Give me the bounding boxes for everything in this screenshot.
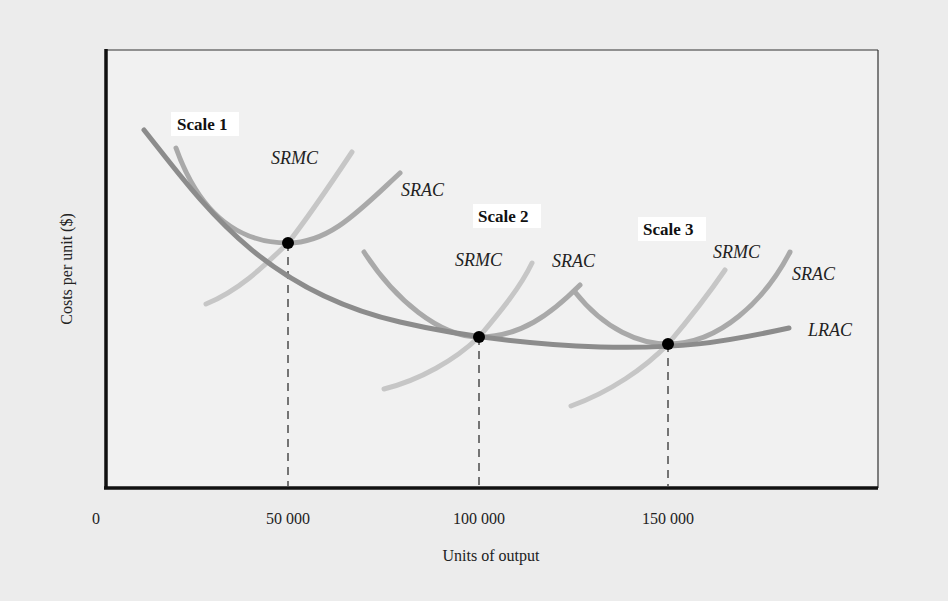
x-axis-label: Units of output <box>443 547 540 565</box>
scale3-label: Scale 3 <box>643 220 694 239</box>
x-tick-0: 0 <box>92 510 100 527</box>
optimum-point-scale1 <box>282 237 294 249</box>
x-tick-100000: 100 000 <box>453 510 505 527</box>
scale2-label: Scale 2 <box>478 207 529 226</box>
srac-label-scale3: SRAC <box>792 264 836 284</box>
srmc-label-scale1: SRMC <box>271 148 319 168</box>
lrac-label: LRAC <box>807 320 853 340</box>
srac-label-scale1: SRAC <box>401 180 445 200</box>
srac-label-scale2: SRAC <box>552 251 596 271</box>
scale1-label: Scale 1 <box>177 115 228 134</box>
optimum-point-scale3 <box>662 338 674 350</box>
x-tick-150000: 150 000 <box>642 510 694 527</box>
x-tick-50000: 50 000 <box>266 510 310 527</box>
srmc-label-scale3: SRMC <box>713 242 761 262</box>
y-axis-label: Costs per unit ($) <box>58 213 76 325</box>
srmc-label-scale2: SRMC <box>455 250 503 270</box>
cost-curves-chart: Scale 1 Scale 2 Scale 3 SRMC SRAC SRMC S… <box>0 0 948 601</box>
optimum-point-scale2 <box>473 331 485 343</box>
